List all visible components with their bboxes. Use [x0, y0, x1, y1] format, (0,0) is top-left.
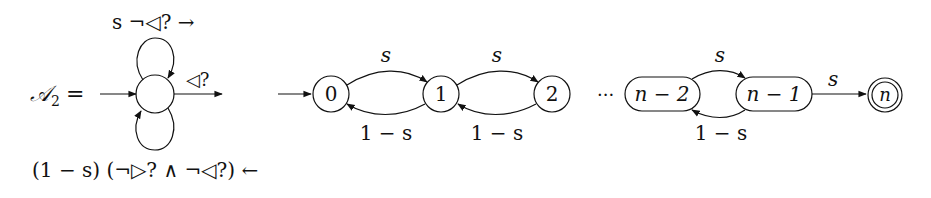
diagram-canvas: 𝒜2= s ¬◁? → (1 − s) (¬▷? ∧ ¬◁?) ← ◁? 0 1…	[0, 0, 931, 198]
automaton-name: 𝒜2=	[30, 81, 84, 109]
transition-n2-n1	[692, 71, 745, 79]
transition-1-2	[457, 71, 538, 85]
state-a2	[136, 75, 174, 113]
self-loop-bottom-label: (1 − s) (¬▷? ∧ ¬◁?) ←	[32, 158, 258, 182]
transition-2-1-label: 1 − s	[471, 121, 523, 145]
state-n-label: n	[879, 84, 891, 105]
self-loop-top	[137, 38, 174, 80]
transition-1-0	[347, 104, 425, 115]
state-1-label: 1	[435, 82, 448, 106]
self-loop-top-label: s ¬◁? →	[112, 10, 195, 34]
self-loop-bottom	[136, 108, 174, 150]
transition-n2-n1-label: s	[715, 43, 725, 67]
exit-label: ◁?	[186, 69, 210, 90]
transition-0-1	[347, 71, 427, 85]
state-0-label: 0	[325, 82, 338, 106]
transition-n1-n-label: s	[828, 67, 838, 91]
ellipsis: ···	[597, 84, 614, 105]
state-n-2-label: n − 2	[634, 82, 689, 106]
automaton-a2: 𝒜2= s ¬◁? → (1 − s) (¬▷? ∧ ¬◁?) ← ◁?	[30, 10, 258, 182]
state-n-1-label: n − 1	[746, 82, 801, 106]
transition-1-2-label: s	[492, 43, 502, 67]
transition-n1-n2-label: 1 − s	[695, 121, 747, 145]
state-2-label: 2	[546, 82, 559, 106]
transition-1-0-label: 1 − s	[360, 121, 412, 145]
transition-0-1-label: s	[381, 43, 391, 67]
transition-n1-n2	[692, 110, 745, 118]
transition-2-1	[458, 104, 536, 115]
chain-automaton: 0 1 2 s 1 − s s 1 − s ··· n − 2 n − 1 s …	[278, 43, 902, 145]
